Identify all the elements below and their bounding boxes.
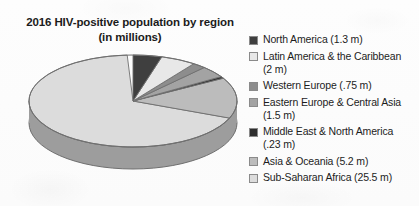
legend-label-middle-east-north-africa: Middle East & North America (.23 m) (263, 125, 393, 151)
legend-swatch-sub-saharan-africa (249, 174, 258, 183)
pie-svg (22, 48, 248, 188)
pie-chart-figure: 2016 HIV-positive population by region (… (0, 0, 419, 206)
legend-label-sub-saharan-africa: Sub-Saharan Africa (25.5 m) (263, 171, 392, 184)
legend-label-latin-america-caribbean: Latin America & the Caribbean (2 m) (263, 50, 401, 76)
pie-chart-graphic (22, 48, 248, 188)
legend-item-sub-saharan-africa: Sub-Saharan Africa (25.5 m) (249, 171, 417, 184)
legend-swatch-latin-america (249, 52, 258, 61)
legend-label-north-america: North America (1.3 m) (263, 33, 363, 46)
pie-slices (29, 55, 237, 147)
legend-item-asia-oceania: Asia & Oceania (5.2 m) (249, 155, 417, 168)
legend-swatch-north-america (249, 36, 258, 45)
legend-swatch-western-europe (249, 82, 258, 91)
legend-swatch-asia-oceania (249, 157, 258, 166)
legend-item-middle-east-north-africa: Middle East & North America (.23 m) (249, 125, 417, 151)
legend-item-western-europe: Western Europe (.75 m) (249, 79, 417, 92)
legend-swatch-middle-east (249, 128, 258, 137)
chart-legend: North America (1.3 m) Latin America & th… (249, 33, 417, 188)
legend-label-asia-oceania: Asia & Oceania (5.2 m) (263, 155, 368, 168)
chart-title: 2016 HIV-positive population by region (… (18, 15, 242, 44)
legend-swatch-eastern-europe (249, 98, 258, 107)
legend-item-eastern-europe-central-asia: Eastern Europe & Central Asia (1.5 m) (249, 96, 417, 122)
legend-label-eastern-europe-central-asia: Eastern Europe & Central Asia (1.5 m) (263, 96, 401, 122)
legend-item-north-america: North America (1.3 m) (249, 33, 417, 46)
legend-item-latin-america-caribbean: Latin America & the Caribbean (2 m) (249, 50, 417, 76)
legend-label-western-europe: Western Europe (.75 m) (263, 79, 372, 92)
